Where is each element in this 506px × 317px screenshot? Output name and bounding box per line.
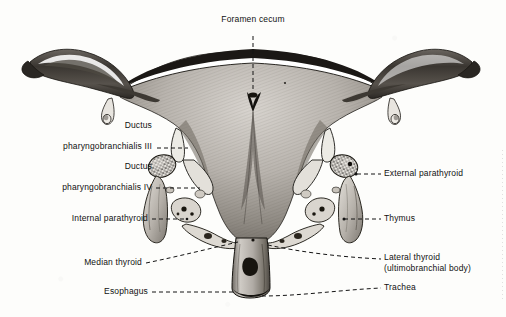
label-ductus-iii-line2: pharyngobranchialis III [12,141,152,152]
label-lateral-thyroid-line1: Lateral thyroid [384,252,440,263]
trachea-esophagus-tube [232,238,270,298]
anatomy-figure: Foramen cecum Ductus pharyngobranchialis… [0,0,506,317]
label-foramen-cecum: Foramen cecum [193,14,313,25]
leader-trachea [262,288,381,296]
label-esophagus: Esophagus [12,286,148,297]
label-median-thyroid: Median thyroid [12,257,142,268]
label-trachea: Trachea [384,282,416,293]
label-ductus-iv-line2: pharyngobranchialis IV [12,182,152,193]
label-ductus-iii-line1: Ductus [12,120,152,131]
foramen-cecum-pit [249,92,258,97]
scan-edge-artifact [502,150,503,300]
leader-median-thyroid [146,242,238,263]
right-thymus [339,176,363,243]
label-thymus: Thymus [384,213,415,224]
label-external-parathyroid: External parathyroid [384,168,463,179]
label-ductus-iv-line1: Ductus [12,161,152,172]
label-lateral-thyroid-line2: (ultimobranchial body) [384,263,471,274]
label-internal-parathyroid: Internal parathyroid [12,213,148,224]
